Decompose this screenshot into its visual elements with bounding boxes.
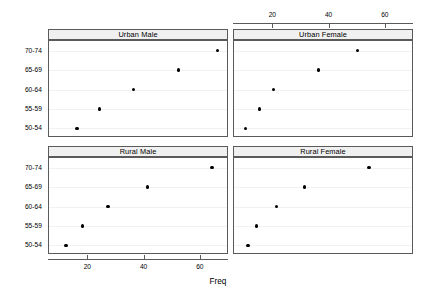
y-axis-tick-label: 60-64 <box>8 202 42 209</box>
data-point <box>177 68 180 71</box>
panel-gridline <box>49 70 227 71</box>
panel-gridline <box>234 207 412 208</box>
x-axis-tick-label: 40 <box>325 11 332 18</box>
panel-gridline <box>49 90 227 91</box>
panel-gridline <box>49 207 227 208</box>
data-point <box>146 185 149 188</box>
data-point <box>81 224 84 227</box>
x-axis-tick <box>329 24 330 28</box>
panel-gridline <box>234 187 412 188</box>
y-axis-tick-label: 55-59 <box>8 221 42 228</box>
x-axis-line <box>48 259 228 260</box>
panel-gridline <box>49 226 227 227</box>
data-point <box>303 185 306 188</box>
x-axis-tick <box>144 255 145 259</box>
x-axis-tick <box>87 255 88 259</box>
x-axis-tick <box>272 24 273 28</box>
panel-gridline <box>49 168 227 169</box>
panel-gridline <box>234 226 412 227</box>
panel-urban-female <box>233 40 413 137</box>
data-point <box>246 244 249 247</box>
panel-strip-label: Urban Female <box>299 31 347 38</box>
data-point <box>272 88 275 91</box>
x-axis-tick-label: 60 <box>381 11 388 18</box>
panel-strip-urban-male: Urban Male <box>48 29 228 40</box>
panel-strip-rural-female: Rural Female <box>233 146 413 157</box>
panel-strip-rural-male: Rural Male <box>48 146 228 157</box>
data-point <box>255 224 258 227</box>
panel-strip-urban-female: Urban Female <box>233 29 413 40</box>
x-axis-tick-label: 20 <box>269 11 276 18</box>
x-axis-tick <box>200 255 201 259</box>
y-axis-tick-label: 50-54 <box>8 241 42 248</box>
data-point <box>258 107 261 110</box>
y-axis-tick-label: 70-74 <box>8 46 42 53</box>
data-point <box>216 49 219 52</box>
panel-strip-label: Rural Male <box>120 148 157 155</box>
panel-rural-female <box>233 157 413 254</box>
y-axis-tick-label: 50-54 <box>8 124 42 131</box>
panel-gridline <box>234 90 412 91</box>
x-axis-tick-label: 60 <box>196 263 203 270</box>
y-axis-tick-label: 55-59 <box>8 104 42 111</box>
x-axis-line <box>233 23 413 24</box>
data-point <box>367 166 370 169</box>
data-point <box>64 244 67 247</box>
lattice-dotplot: Urban MaleUrban FemaleRural MaleRural Fe… <box>0 0 436 298</box>
panel-gridline <box>234 51 412 52</box>
panel-urban-male <box>48 40 228 137</box>
y-axis-tick-label: 65-69 <box>8 66 42 73</box>
data-point <box>75 127 78 130</box>
y-axis-tick-label: 65-69 <box>8 183 42 190</box>
data-point <box>275 205 278 208</box>
panel-gridline <box>49 245 227 246</box>
x-axis-title: Freq <box>0 277 436 286</box>
panel-gridline <box>49 109 227 110</box>
y-axis-tick-label: 70-74 <box>8 163 42 170</box>
panel-gridline <box>234 128 412 129</box>
x-axis-tick-label: 40 <box>140 263 147 270</box>
x-axis-tick <box>385 24 386 28</box>
data-point <box>132 88 135 91</box>
data-point <box>317 68 320 71</box>
panel-rural-male <box>48 157 228 254</box>
x-axis-tick-label: 20 <box>84 263 91 270</box>
data-point <box>356 49 359 52</box>
panel-strip-label: Urban Male <box>118 31 157 38</box>
data-point <box>210 166 213 169</box>
data-point <box>98 107 101 110</box>
panel-gridline <box>49 51 227 52</box>
data-point <box>106 205 109 208</box>
panel-strip-label: Rural Female <box>300 148 346 155</box>
panel-gridline <box>234 168 412 169</box>
panel-gridline <box>234 245 412 246</box>
y-axis-tick-label: 60-64 <box>8 85 42 92</box>
panel-gridline <box>49 187 227 188</box>
panel-gridline <box>234 70 412 71</box>
data-point <box>244 127 247 130</box>
